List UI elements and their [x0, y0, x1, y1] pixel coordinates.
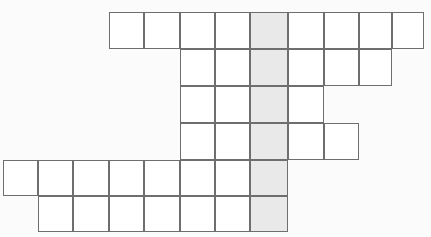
cell-letter — [251, 87, 287, 122]
cell-letter — [110, 161, 143, 195]
cell-letter — [360, 50, 391, 85]
cell-letter — [145, 13, 179, 48]
cell-letter — [39, 161, 72, 195]
grid-cell[interactable] — [215, 123, 250, 160]
grid-cell[interactable] — [359, 49, 392, 86]
grid-cell[interactable] — [180, 196, 215, 232]
grid-cell[interactable] — [324, 123, 359, 160]
grid-cell[interactable] — [250, 86, 288, 123]
cell-letter — [325, 13, 358, 48]
crossword-grid — [0, 0, 431, 237]
grid-cell[interactable] — [73, 160, 109, 196]
grid-cell[interactable] — [180, 12, 215, 49]
grid-cell[interactable] — [324, 12, 359, 49]
cell-letter — [181, 161, 214, 195]
grid-cell[interactable] — [109, 160, 144, 196]
grid-cell[interactable] — [324, 49, 359, 86]
grid-cell[interactable] — [250, 123, 288, 160]
grid-cell[interactable] — [250, 49, 288, 86]
cell-letter — [289, 13, 323, 48]
grid-cell[interactable] — [215, 86, 250, 123]
cell-letter — [360, 13, 391, 48]
grid-cell[interactable] — [250, 12, 288, 49]
cell-letter — [216, 87, 249, 122]
grid-cell[interactable] — [180, 86, 215, 123]
cell-letter — [216, 197, 249, 231]
grid-cell[interactable] — [288, 49, 324, 86]
grid-cell[interactable] — [144, 12, 180, 49]
cell-letter — [251, 161, 287, 195]
cell-letter — [181, 50, 214, 85]
grid-cell[interactable] — [109, 196, 144, 232]
grid-cell[interactable] — [3, 160, 38, 196]
cell-letter — [145, 197, 179, 231]
grid-cell[interactable] — [215, 160, 250, 196]
cell-letter — [110, 197, 143, 231]
grid-cell[interactable] — [288, 12, 324, 49]
cell-letter — [289, 124, 323, 159]
cell-letter — [4, 161, 37, 195]
cell-letter — [74, 197, 108, 231]
cell-letter — [216, 50, 249, 85]
cell-letter — [181, 197, 214, 231]
cell-letter — [216, 124, 249, 159]
cell-letter — [251, 13, 287, 48]
grid-cell[interactable] — [215, 196, 250, 232]
cell-letter — [393, 13, 423, 48]
grid-cell[interactable] — [38, 196, 73, 232]
cell-letter — [251, 124, 287, 159]
cell-letter — [216, 161, 249, 195]
grid-cell[interactable] — [144, 160, 180, 196]
cell-letter — [325, 124, 358, 159]
cell-letter — [216, 13, 249, 48]
cell-letter — [325, 50, 358, 85]
grid-cell[interactable] — [73, 196, 109, 232]
grid-cell[interactable] — [288, 123, 324, 160]
grid-cell[interactable] — [109, 12, 144, 49]
cell-letter — [251, 197, 287, 231]
grid-cell[interactable] — [250, 160, 288, 196]
cell-letter — [251, 50, 287, 85]
grid-cell[interactable] — [359, 12, 392, 49]
grid-cell[interactable] — [250, 196, 288, 232]
grid-cell[interactable] — [392, 12, 424, 49]
grid-cell[interactable] — [38, 160, 73, 196]
grid-cell[interactable] — [180, 123, 215, 160]
cell-letter — [39, 197, 72, 231]
grid-cell[interactable] — [180, 49, 215, 86]
grid-cell[interactable] — [215, 12, 250, 49]
grid-cell[interactable] — [144, 196, 180, 232]
grid-cell[interactable] — [288, 86, 324, 123]
cell-letter — [110, 13, 143, 48]
cell-letter — [289, 87, 323, 122]
cell-letter — [181, 124, 214, 159]
cell-letter — [289, 50, 323, 85]
cell-letter — [74, 161, 108, 195]
cell-letter — [181, 87, 214, 122]
cell-letter — [181, 13, 214, 48]
cell-letter — [145, 161, 179, 195]
grid-cell[interactable] — [180, 160, 215, 196]
grid-cell[interactable] — [215, 49, 250, 86]
